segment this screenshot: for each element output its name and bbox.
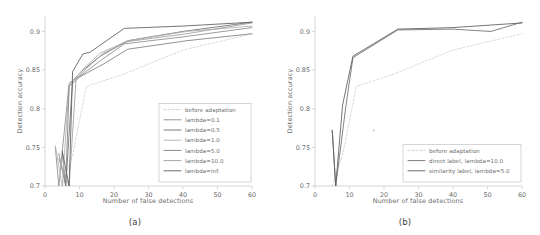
legend-label: similarity label, lambda=5.0 — [429, 168, 510, 175]
x-tick-label: 50 — [483, 191, 491, 199]
x-axis-title: Number of false detections — [373, 197, 464, 205]
x-tick-label: 10 — [345, 191, 353, 199]
chart-panel-b: 0102030405060 0.70.750.80.850.9 before a… — [270, 0, 540, 235]
x-tick-label: 0 — [313, 191, 317, 199]
legend-label: lambda=inf. — [185, 168, 220, 174]
plot-a-svg: 0102030405060 0.70.750.80.850.9 before a… — [0, 0, 270, 210]
legend-label: lambda=0.1 — [185, 117, 220, 123]
y-tick-label: 0.8 — [300, 105, 310, 113]
y-tick-label: 0.85 — [296, 66, 310, 74]
plot-b-legend: before adaptationdirect label, lambda=10… — [403, 144, 521, 182]
x-tick-label: 50 — [213, 191, 221, 199]
y-tick-label: 0.7 — [30, 182, 40, 190]
legend-label: lambda=0.5 — [185, 127, 220, 133]
plot-a-legend: before adaptationlambda=0.1lambda=0.5lam… — [159, 104, 251, 182]
plot-b-yticks: 0.70.750.80.850.9 — [296, 28, 315, 191]
plot-b-annotations — [373, 129, 375, 131]
plot-a-yticks: 0.70.750.80.850.9 — [26, 28, 45, 191]
legend-label: lambda=1.0 — [185, 137, 220, 143]
y-tick-label: 0.7 — [300, 182, 310, 190]
legend-label: lambda=10.0 — [185, 158, 224, 164]
y-tick-label: 0.85 — [26, 66, 40, 74]
y-axis-title: Detection accuracy — [286, 69, 294, 134]
x-tick-label: 60 — [248, 191, 256, 199]
y-tick-label: 0.9 — [300, 28, 310, 36]
panel-caption-a: (a) — [0, 217, 270, 227]
x-tick-label: 10 — [75, 191, 83, 199]
legend-label: lambda=5.0 — [185, 148, 220, 154]
y-tick-label: 0.8 — [30, 105, 40, 113]
panel-caption-b: (b) — [270, 217, 540, 227]
chart-panel-a: 0102030405060 0.70.750.80.850.9 before a… — [0, 0, 270, 235]
plot-b-svg: 0102030405060 0.70.750.80.850.9 before a… — [270, 0, 540, 210]
annotation-dot — [373, 129, 375, 131]
legend-label: direct label, lambda=10.0 — [429, 158, 504, 164]
y-tick-label: 0.9 — [30, 28, 40, 36]
figure-container: 0102030405060 0.70.750.80.850.9 before a… — [0, 0, 540, 235]
legend-label: before adaptation — [185, 107, 236, 114]
y-tick-label: 0.75 — [296, 144, 310, 152]
legend-label: before adaptation — [429, 148, 480, 155]
x-tick-label: 0 — [43, 191, 47, 199]
y-axis-title: Detection accuracy — [16, 69, 24, 134]
x-axis-title: Number of false detections — [103, 197, 194, 205]
y-tick-label: 0.75 — [26, 144, 40, 152]
x-tick-label: 60 — [518, 191, 526, 199]
